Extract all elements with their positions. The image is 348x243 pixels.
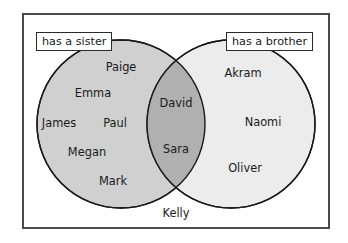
set-label-left: has a sister (36, 32, 112, 51)
venn-name-right-only: Naomi (245, 117, 282, 128)
venn-name-left-only: Emma (75, 88, 111, 99)
venn-name-outside: Kelly (163, 208, 190, 219)
venn-name-left-only: James (42, 118, 76, 129)
venn-name-left-only: Megan (68, 147, 106, 158)
venn-name-intersection: Sara (163, 144, 189, 155)
venn-diagram-image: has a sister has a brother PaigeEmmaJame… (0, 0, 348, 243)
venn-name-left-only: Mark (99, 176, 127, 187)
set-label-right: has a brother (226, 32, 313, 51)
venn-name-right-only: Oliver (228, 163, 262, 174)
venn-name-left-only: Paige (106, 62, 137, 73)
venn-name-left-only: Paul (103, 118, 127, 129)
venn-name-intersection: David (160, 98, 193, 109)
venn-name-right-only: Akram (224, 68, 261, 79)
